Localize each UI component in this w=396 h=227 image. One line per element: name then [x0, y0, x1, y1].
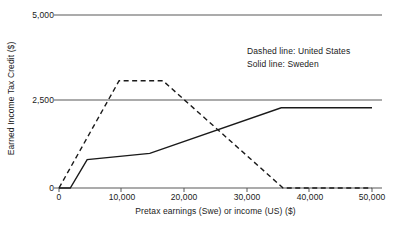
y-axis-ticks	[54, 15, 58, 188]
series-line-united-states	[59, 81, 372, 188]
plot-area	[0, 0, 396, 227]
chart-figure: Earned Income Tax Credit ($) 5,000 2,500…	[0, 0, 396, 227]
gridlines	[58, 15, 382, 188]
series-line-sweden	[59, 108, 372, 188]
